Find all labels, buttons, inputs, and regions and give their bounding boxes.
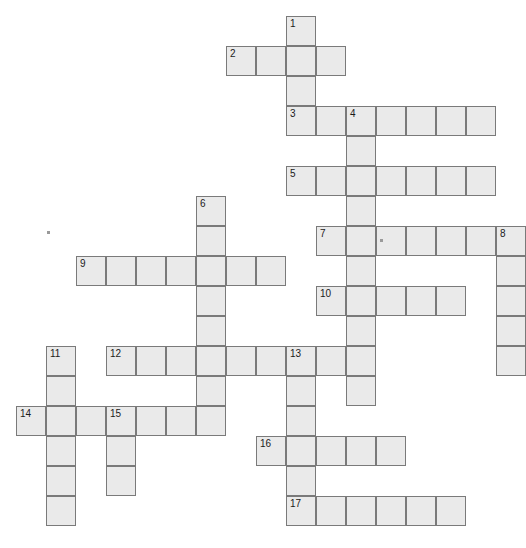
- crossword-cell[interactable]: [346, 376, 376, 406]
- crossword-cell[interactable]: [496, 256, 526, 286]
- crossword-cell[interactable]: [436, 166, 466, 196]
- crossword-cell[interactable]: [436, 226, 466, 256]
- crossword-cell[interactable]: [256, 46, 286, 76]
- crossword-cell[interactable]: [346, 496, 376, 526]
- crossword-cell-8[interactable]: 8: [496, 226, 526, 256]
- crossword-cell[interactable]: [346, 256, 376, 286]
- crossword-cell-2[interactable]: 2: [226, 46, 256, 76]
- crossword-cell[interactable]: [406, 496, 436, 526]
- crossword-cell[interactable]: [136, 406, 166, 436]
- crossword-cell[interactable]: [46, 376, 76, 406]
- crossword-cell[interactable]: [376, 166, 406, 196]
- crossword-cell[interactable]: [346, 286, 376, 316]
- crossword-cell[interactable]: [286, 376, 316, 406]
- crossword-cell[interactable]: [406, 106, 436, 136]
- crossword-cell[interactable]: [406, 166, 436, 196]
- crossword-cell[interactable]: [166, 256, 196, 286]
- crossword-cell[interactable]: [196, 256, 226, 286]
- crossword-cell-11[interactable]: 11: [46, 346, 76, 376]
- crossword-cell[interactable]: [436, 286, 466, 316]
- crossword-cell[interactable]: [346, 166, 376, 196]
- crossword-cell[interactable]: [436, 106, 466, 136]
- crossword-cell-17[interactable]: 17: [286, 496, 316, 526]
- crossword-cell[interactable]: [406, 226, 436, 256]
- crossword-cell[interactable]: [196, 226, 226, 256]
- crossword-cell[interactable]: [466, 166, 496, 196]
- crossword-cell-4[interactable]: 4: [346, 106, 376, 136]
- crossword-cell[interactable]: [346, 436, 376, 466]
- crossword-cell[interactable]: [196, 316, 226, 346]
- crossword-cell-10[interactable]: 10: [316, 286, 346, 316]
- crossword-cell[interactable]: [436, 496, 466, 526]
- crossword-cell[interactable]: [286, 436, 316, 466]
- crossword-cell[interactable]: [196, 376, 226, 406]
- crossword-cell[interactable]: [256, 256, 286, 286]
- crossword-cell[interactable]: [376, 106, 406, 136]
- crossword-cell[interactable]: [106, 436, 136, 466]
- crossword-cell-9[interactable]: 9: [76, 256, 106, 286]
- crossword-cell[interactable]: [466, 226, 496, 256]
- clue-number: 17: [290, 498, 301, 509]
- crossword-cell-1[interactable]: 1: [286, 16, 316, 46]
- crossword-cell[interactable]: [346, 346, 376, 376]
- crossword-cell[interactable]: [286, 406, 316, 436]
- crossword-cell-12[interactable]: 12: [106, 346, 136, 376]
- crossword-cell[interactable]: [166, 346, 196, 376]
- crossword-cell[interactable]: [406, 286, 436, 316]
- crossword-cell[interactable]: [376, 286, 406, 316]
- crossword-cell[interactable]: [196, 346, 226, 376]
- clue-number: 6: [200, 198, 206, 209]
- crossword-cell[interactable]: [496, 346, 526, 376]
- crossword-cell[interactable]: [196, 286, 226, 316]
- crossword-cell[interactable]: [496, 286, 526, 316]
- crossword-cell[interactable]: [226, 256, 256, 286]
- crossword-cell[interactable]: [166, 406, 196, 436]
- crossword-cell-6[interactable]: 6: [196, 196, 226, 226]
- clue-number: 7: [320, 228, 326, 239]
- crossword-cell[interactable]: [316, 346, 346, 376]
- crossword-cell[interactable]: [226, 346, 256, 376]
- crossword-cell[interactable]: [46, 466, 76, 496]
- crossword-cell[interactable]: [286, 466, 316, 496]
- clue-number: 8: [500, 228, 506, 239]
- crossword-cell-13[interactable]: 13: [286, 346, 316, 376]
- crossword-cell-14[interactable]: 14: [16, 406, 46, 436]
- crossword-cell[interactable]: [76, 406, 106, 436]
- crossword-cell[interactable]: [106, 466, 136, 496]
- crossword-cell[interactable]: [106, 256, 136, 286]
- clue-number: 10: [320, 288, 331, 299]
- crossword-cell[interactable]: [46, 436, 76, 466]
- crossword-cell[interactable]: [136, 346, 166, 376]
- clue-number: 14: [20, 408, 31, 419]
- crossword-cell[interactable]: [316, 46, 346, 76]
- clue-number: 1: [290, 18, 296, 29]
- crossword-cell[interactable]: [346, 226, 376, 256]
- crossword-cell[interactable]: [46, 496, 76, 526]
- crossword-cell-3[interactable]: 3: [286, 106, 316, 136]
- crossword-cell[interactable]: [316, 166, 346, 196]
- crossword-cell[interactable]: [136, 256, 166, 286]
- speck-grid: [380, 239, 383, 242]
- crossword-cell[interactable]: [286, 76, 316, 106]
- clue-number: 16: [260, 438, 271, 449]
- crossword-cell[interactable]: [316, 106, 346, 136]
- crossword-cell[interactable]: [376, 496, 406, 526]
- crossword-cell[interactable]: [346, 196, 376, 226]
- crossword-cell[interactable]: [196, 406, 226, 436]
- crossword-cell[interactable]: [346, 136, 376, 166]
- crossword-cell[interactable]: [466, 106, 496, 136]
- crossword-cell[interactable]: [346, 316, 376, 346]
- crossword-cell-5[interactable]: 5: [286, 166, 316, 196]
- clue-number: 3: [290, 108, 296, 119]
- crossword-cell[interactable]: [256, 346, 286, 376]
- crossword-cell[interactable]: [46, 406, 76, 436]
- clue-number: 13: [290, 348, 301, 359]
- crossword-cell-16[interactable]: 16: [256, 436, 286, 466]
- crossword-cell-7[interactable]: 7: [316, 226, 346, 256]
- crossword-cell[interactable]: [286, 46, 316, 76]
- crossword-cell[interactable]: [316, 496, 346, 526]
- crossword-cell[interactable]: [496, 316, 526, 346]
- crossword-cell[interactable]: [316, 436, 346, 466]
- crossword-cell-15[interactable]: 15: [106, 406, 136, 436]
- crossword-cell[interactable]: [376, 436, 406, 466]
